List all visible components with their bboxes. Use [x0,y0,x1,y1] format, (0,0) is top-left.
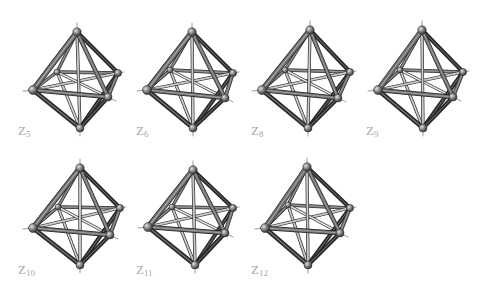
edge-top-right-shine [307,167,350,208]
label-subscript: 11 [144,268,153,278]
atom-bottom [76,261,84,269]
atom-back [54,69,60,75]
atom-bottom [191,261,199,269]
label-symbol: Z [18,262,26,277]
label-subscript: 12 [259,268,268,278]
atom-front [104,93,112,101]
octahedron-z5 [23,23,124,136]
label-subscript: 9 [374,129,379,139]
edge-front-bottom-shine [80,97,108,128]
atom-back [55,204,61,210]
panel-label-z10: Z10 [18,263,35,278]
atom-bottom [419,124,427,132]
octahedron-z6 [137,23,239,136]
atom-right [114,69,121,76]
octahedron-z11 [138,161,239,273]
edge-top-right-shine [422,30,463,72]
atom-left [261,224,270,233]
edge-front-bottom-shine [80,235,110,265]
atom-right [229,69,236,76]
edge-front-bottom-shine [193,98,225,128]
octahedra-figure: Z5Z6Z8Z9Z10Z11Z12 [0,0,488,288]
edge-top-front-shine [80,168,110,235]
panel-label-z12: Z12 [251,263,268,278]
atom-left [144,223,153,232]
atom-bottom [304,261,312,269]
panel-label-z8: Z8 [251,124,263,139]
atom-front [336,229,344,237]
edge-top-right-shine [193,170,233,208]
atom-back [167,67,173,73]
atom-front [449,93,457,101]
atom-left [29,86,38,95]
atom-right [229,204,236,211]
label-subscript: 5 [26,129,31,139]
atom-top [76,164,84,172]
edge-front-bottom-shine [423,97,453,128]
label-symbol: Z [18,123,26,138]
atom-top [303,163,311,171]
atom-bottom [76,124,84,132]
atom-top [189,166,197,174]
edge-top-front-shine [310,30,338,98]
edge-top-front-shine [422,30,453,97]
atom-front [106,231,114,239]
octahedron-z10 [23,159,126,273]
atom-right [116,204,123,211]
label-subscript: 8 [259,129,264,139]
atom-left [258,86,267,95]
atom-back [285,202,291,208]
atom-right [459,68,466,75]
panel-label-z9: Z9 [366,124,378,139]
atom-left [143,86,152,95]
atom-right [346,68,353,75]
panel-label-z11: Z11 [136,263,153,278]
edge-top-right-shine [192,32,233,73]
octahedron-z12 [255,158,356,273]
atom-top [306,26,314,34]
panel-label-z5: Z5 [18,124,30,139]
atom-right [346,204,353,211]
atom-left [29,224,38,233]
atom-front [221,94,229,102]
octahedron-z8 [252,21,356,136]
label-symbol: Z [251,123,259,138]
atom-back [169,204,175,210]
atom-bottom [189,124,197,132]
octahedron-z9 [368,21,469,136]
atom-back [397,67,403,73]
label-symbol: Z [366,123,374,138]
edge-front-bottom-shine [308,233,340,265]
atom-bottom [304,124,312,132]
atom-top [73,28,81,36]
atom-back [282,67,288,73]
edge-front-bottom-shine [308,98,338,128]
atom-front [221,229,229,237]
atom-left [374,86,383,95]
edge-top-right-shine [77,32,118,73]
octahedra-drawing [0,0,488,288]
edge-front-bottom-shine [195,233,225,265]
edge-top-right-shine [80,168,120,208]
label-symbol: Z [136,262,144,277]
label-subscript: 6 [144,129,149,139]
edge-top-front-shine [77,32,108,97]
label-symbol: Z [136,123,144,138]
panel-label-z6: Z6 [136,124,148,139]
label-symbol: Z [251,262,259,277]
edge-top-right-shine [310,30,350,72]
atom-front [334,94,342,102]
label-subscript: 10 [26,268,35,278]
atom-top [418,26,426,34]
atom-top [188,28,196,36]
